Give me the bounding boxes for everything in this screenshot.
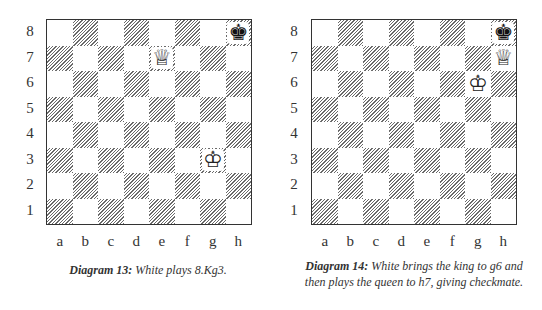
square-f7: [440, 46, 466, 72]
square-b6: [73, 71, 99, 97]
square-g7: [465, 46, 491, 72]
square-g4: [200, 122, 226, 148]
square-d6: [389, 71, 415, 97]
square-h6: [226, 71, 252, 97]
square-a4: [47, 122, 73, 148]
square-g5: [200, 97, 226, 123]
square-h5: [491, 97, 517, 123]
square-c3: [98, 148, 124, 174]
square-h7: [226, 46, 252, 72]
file-label: c: [363, 231, 389, 251]
square-h6: [491, 71, 517, 97]
square-d7: [389, 46, 415, 72]
caption-label: Diagram 14:: [305, 259, 368, 273]
file-label: d: [389, 231, 415, 251]
square-d1: [124, 199, 150, 225]
white-queen-icon: ♕: [149, 46, 175, 72]
square-h8: ♚: [226, 20, 252, 46]
square-h8: ♚: [491, 20, 517, 46]
square-f8: [440, 20, 466, 46]
file-label: d: [124, 231, 150, 251]
caption-text: White plays 8.Kg3.: [132, 263, 226, 277]
square-g1: [200, 199, 226, 225]
square-a5: [47, 97, 73, 123]
file-label: f: [440, 231, 466, 251]
file-label: b: [338, 231, 364, 251]
square-h5: [226, 97, 252, 123]
rank-labels: 8 7 6 5 4 3 2 1: [284, 19, 304, 223]
square-g8: [465, 20, 491, 46]
file-labels: a b c d e f g h: [312, 231, 516, 251]
rank-label: 1: [284, 198, 304, 224]
diagram-caption: Diagram 13: White plays 8.Kg3.: [46, 262, 250, 278]
square-a3: [47, 148, 73, 174]
square-d1: [389, 199, 415, 225]
rank-label: 6: [284, 70, 304, 96]
square-a4: [312, 122, 338, 148]
rank-label: 5: [284, 96, 304, 122]
square-g4: [465, 122, 491, 148]
square-c7: [363, 46, 389, 72]
square-b4: [73, 122, 99, 148]
square-d6: [124, 71, 150, 97]
square-e7: [414, 46, 440, 72]
square-a1: [312, 199, 338, 225]
piece-glyph: ♔: [467, 73, 489, 95]
caption-label: Diagram 13:: [69, 263, 132, 277]
square-e8: [414, 20, 440, 46]
diagram-13: 8 7 6 5 4 3 2 1 ♚♕♔ a b c d e f g h Diag…: [0, 0, 271, 310]
square-d7: [124, 46, 150, 72]
square-b1: [73, 199, 99, 225]
square-b7: [338, 46, 364, 72]
square-g8: [200, 20, 226, 46]
file-label: e: [414, 231, 440, 251]
square-a1: [47, 199, 73, 225]
square-h1: [491, 199, 517, 225]
square-b5: [73, 97, 99, 123]
rank-label: 3: [20, 147, 40, 173]
rank-label: 2: [284, 172, 304, 198]
square-b8: [338, 20, 364, 46]
square-d5: [389, 97, 415, 123]
white-queen-icon: ♕: [491, 46, 517, 72]
square-f6: [440, 71, 466, 97]
square-d2: [389, 173, 415, 199]
black-king-icon: ♚: [491, 20, 517, 46]
square-e1: [149, 199, 175, 225]
square-h4: [491, 122, 517, 148]
diagram-caption: Diagram 14: White brings the king to g6 …: [303, 258, 525, 290]
rank-label: 8: [284, 19, 304, 45]
square-f2: [175, 173, 201, 199]
diagram-14: 8 7 6 5 4 3 2 1 ♚♕♔ a b c d e f g h Diag…: [271, 0, 542, 310]
square-a2: [312, 173, 338, 199]
square-a8: [47, 20, 73, 46]
file-label: b: [73, 231, 99, 251]
square-e3: [414, 148, 440, 174]
square-b2: [73, 173, 99, 199]
chess-board: ♚♕♔: [311, 19, 517, 225]
file-label: f: [175, 231, 201, 251]
square-e6: [414, 71, 440, 97]
square-d3: [389, 148, 415, 174]
square-e2: [414, 173, 440, 199]
square-g3: [465, 148, 491, 174]
square-g6: ♔: [465, 71, 491, 97]
square-c6: [98, 71, 124, 97]
square-e6: [149, 71, 175, 97]
piece-glyph: ♚: [492, 22, 514, 44]
square-a7: [47, 46, 73, 72]
square-c5: [363, 97, 389, 123]
square-d2: [124, 173, 150, 199]
rank-label: 4: [284, 121, 304, 147]
square-g7: [200, 46, 226, 72]
square-f5: [175, 97, 201, 123]
square-b6: [338, 71, 364, 97]
square-a3: [312, 148, 338, 174]
square-c4: [363, 122, 389, 148]
square-a5: [312, 97, 338, 123]
square-f7: [175, 46, 201, 72]
white-king-icon: ♔: [465, 71, 491, 97]
square-f5: [440, 97, 466, 123]
square-d5: [124, 97, 150, 123]
black-king-icon: ♚: [226, 20, 252, 46]
